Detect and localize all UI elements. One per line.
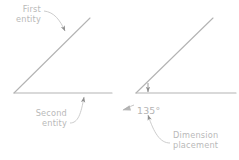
left-panel-group: First entity Second entity bbox=[14, 4, 112, 128]
second-entity-leader-line bbox=[70, 97, 84, 123]
angular-dimension-arc-arrowhead bbox=[123, 105, 132, 110]
right-panel-group: 135° Dimension placement bbox=[123, 18, 237, 150]
dimension-placement-leader-line bbox=[148, 115, 170, 143]
cad-drawing-canvas: First entity Second entity 135° Dimensio… bbox=[0, 0, 239, 160]
first-entity-label-line2: entity bbox=[16, 14, 41, 24]
first-entity-leader-line bbox=[44, 11, 65, 31]
first-entity-label-line1: First bbox=[23, 4, 42, 14]
dimension-placement-label-line1: Dimension bbox=[173, 130, 218, 140]
dimension-placement-label-line2: placement bbox=[173, 140, 219, 150]
angle-dimension-value: 135° bbox=[137, 105, 160, 116]
second-entity-label-line2: entity bbox=[42, 118, 67, 128]
second-entity-label-line1: Second bbox=[36, 108, 67, 118]
left-first-entity-line bbox=[14, 18, 90, 93]
right-first-entity-line bbox=[136, 18, 213, 93]
angular-dimension-diagram: First entity Second entity 135° Dimensio… bbox=[0, 0, 239, 160]
